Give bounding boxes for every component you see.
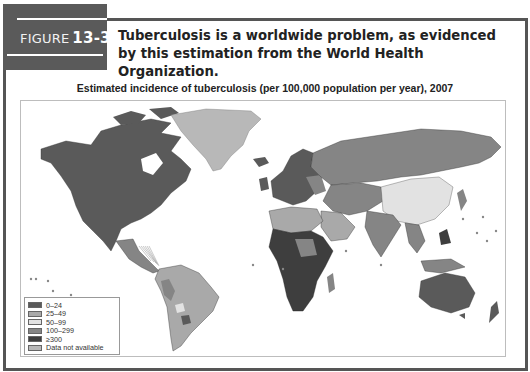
legend-item: 0–24 [28, 301, 116, 310]
legend-swatch [28, 336, 42, 342]
region-russia [311, 129, 501, 185]
figure-word: FIGURE [20, 31, 69, 46]
figure-caption: Tuberculosis is a worldwide problem, as … [118, 27, 518, 81]
legend-item: 100–299 [28, 327, 116, 336]
region-north-africa [269, 207, 323, 233]
map-legend: 0–24 25–49 50–99 100–299 ≥300 Data not a… [24, 297, 120, 355]
world-map: 0–24 25–49 50–99 100–299 ≥300 Data not a… [20, 100, 506, 357]
figure-label-tab: FIGURE13-3 [3, 4, 107, 70]
region-philippines [439, 229, 451, 245]
tab-rule-bottom [7, 54, 103, 56]
region-north-america [41, 119, 191, 251]
legend-label: Data not available [46, 343, 104, 352]
region-tasmania [459, 313, 465, 319]
legend-swatch [28, 319, 42, 325]
legend-swatch [28, 345, 42, 351]
region-central-asia [323, 183, 383, 215]
region-greenland [171, 109, 261, 171]
tab-rule-top [17, 18, 107, 20]
region-madagascar [327, 273, 335, 293]
region-arabia [321, 211, 355, 241]
legend-item: ≥300 [28, 335, 116, 344]
region-new-zealand [489, 301, 499, 323]
region-south-america [155, 265, 219, 351]
region-central-america [116, 239, 159, 273]
legend-item: 25–49 [28, 310, 116, 319]
legend-swatch [28, 302, 42, 308]
figure-label: FIGURE13-3 [20, 29, 111, 47]
figure-number: 13-3 [72, 29, 110, 47]
region-japan [457, 189, 467, 211]
region-australia [419, 273, 475, 313]
region-uk [259, 177, 269, 191]
region-southeast-asia [405, 223, 465, 273]
legend-item: 50–99 [28, 318, 116, 327]
map-title: Estimated incidence of tuberculosis (per… [0, 82, 530, 94]
region-iceland [253, 157, 269, 167]
legend-swatch [28, 328, 42, 334]
legend-swatch [28, 311, 42, 317]
legend-item: Data not available [28, 344, 116, 353]
